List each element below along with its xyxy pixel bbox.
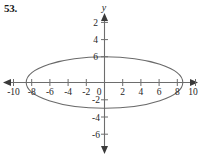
y-tick-label: -6 [92, 130, 100, 140]
x-axis-left-arrow-icon [3, 79, 11, 86]
x-tick-label: -2 [82, 87, 90, 97]
x-tick-label: -8 [28, 87, 36, 97]
x-tick-label: 8 [175, 87, 180, 97]
graph-figure: 53. [0, 0, 201, 160]
y-axis-group [101, 13, 108, 154]
x-axis-right-arrow-icon [190, 79, 198, 86]
x-tick-label: 10 [188, 87, 198, 97]
x-tick-label: 6 [157, 87, 162, 97]
x-tick-label: -6 [46, 87, 54, 97]
y-tick-label: 4 [93, 35, 98, 45]
x-tick-label: -4 [64, 87, 72, 97]
x-tick-label: -10 [7, 87, 20, 97]
y-axis-down-arrow-icon [101, 146, 108, 154]
y-tick-label: -4 [92, 113, 100, 123]
y-tick-label: 6 [93, 52, 98, 62]
y-axis-label: y [101, 2, 107, 13]
coordinate-plane-plot: -10 -8 -6 -4 -2 0 2 4 6 8 10 6 4 2 -2 -4… [0, 0, 201, 160]
x-tick-label: 2 [120, 87, 125, 97]
x-axis-group [3, 79, 198, 86]
y-axis-up-arrow-icon [101, 13, 108, 21]
y-tick-labels: 6 4 2 -2 -4 -6 [92, 18, 100, 140]
x-tick-label: 4 [139, 87, 144, 97]
y-tick-label: -2 [92, 95, 100, 105]
y-tick-label: 2 [93, 18, 98, 28]
